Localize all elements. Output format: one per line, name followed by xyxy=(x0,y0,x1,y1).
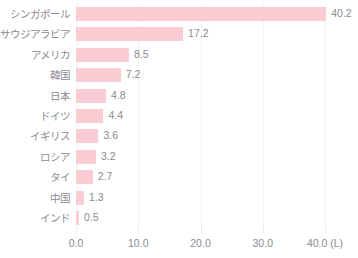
bar-row: 1.3 xyxy=(76,188,325,208)
category-label: ドイツ xyxy=(40,106,70,126)
bar-value-label: 4.4 xyxy=(108,108,123,123)
bar-row: 7.2 xyxy=(76,65,325,85)
category-axis: シンガポールサウジアラビアアメリカ韓国日本ドイツイギリスロシアタイ中国インド xyxy=(0,4,70,228)
axis-tick-mark xyxy=(138,228,139,233)
bar-value-label: 3.6 xyxy=(103,128,118,143)
category-label: シンガポール xyxy=(10,4,70,24)
bar-row: 3.2 xyxy=(76,147,325,167)
axis-tick-mark xyxy=(201,228,202,233)
bar-chart: シンガポールサウジアラビアアメリカ韓国日本ドイツイギリスロシアタイ中国インド 4… xyxy=(0,0,358,258)
bar xyxy=(76,211,79,225)
bar xyxy=(76,150,96,164)
bar-row: 3.6 xyxy=(76,126,325,146)
axis-tick-label: 20.0 xyxy=(190,236,210,250)
bar xyxy=(76,89,106,103)
value-axis: 0.010.020.030.040.0 (L) xyxy=(76,228,325,254)
category-label: ロシア xyxy=(40,147,70,167)
bar-value-label: 7.2 xyxy=(126,67,141,82)
bar-row: 17.2 xyxy=(76,24,325,44)
bar xyxy=(76,170,93,184)
bar-row: 8.5 xyxy=(76,45,325,65)
bar-row: 4.4 xyxy=(76,106,325,126)
bar-rows: 40.217.28.57.24.84.43.63.22.71.30.5 xyxy=(76,4,325,228)
bar-value-label: 4.8 xyxy=(111,88,126,103)
category-label: 日本 xyxy=(50,86,70,106)
axis-tick-mark xyxy=(263,228,264,233)
bar xyxy=(76,191,84,205)
bar-value-label: 17.2 xyxy=(188,26,208,41)
bar-value-label: 1.3 xyxy=(89,190,104,205)
gridline xyxy=(325,4,326,228)
category-label: タイ xyxy=(50,167,70,187)
plot-area: 40.217.28.57.24.84.43.63.22.71.30.5 xyxy=(76,4,325,228)
bar-value-label: 40.2 xyxy=(331,6,351,21)
category-label: サウジアラビア xyxy=(0,24,70,44)
bar-row: 2.7 xyxy=(76,167,325,187)
category-label: 中国 xyxy=(50,188,70,208)
axis-tick-label: 0.0 xyxy=(69,236,84,250)
bar-value-label: 8.5 xyxy=(134,47,149,62)
axis-tick-label: 10.0 xyxy=(128,236,148,250)
bar xyxy=(76,109,103,123)
bar xyxy=(76,27,183,41)
bar xyxy=(76,68,121,82)
category-label: アメリカ xyxy=(31,45,70,65)
bar-row: 4.8 xyxy=(76,86,325,106)
bar-row: 40.2 xyxy=(76,4,325,24)
bar-row: 0.5 xyxy=(76,208,325,228)
category-label: インド xyxy=(40,208,70,228)
category-label: イギリス xyxy=(30,126,70,146)
bar xyxy=(76,7,326,21)
axis-tick-mark xyxy=(76,228,77,233)
bar-value-label: 2.7 xyxy=(98,169,113,184)
axis-tick-mark xyxy=(325,228,326,233)
bar-value-label: 3.2 xyxy=(101,149,116,164)
category-label: 韓国 xyxy=(50,65,70,85)
axis-tick-label: 30.0 xyxy=(253,236,273,250)
bar xyxy=(76,48,129,62)
axis-tick-label: 40.0 (L) xyxy=(307,236,343,250)
bar xyxy=(76,129,98,143)
bar-value-label: 0.5 xyxy=(84,210,99,225)
